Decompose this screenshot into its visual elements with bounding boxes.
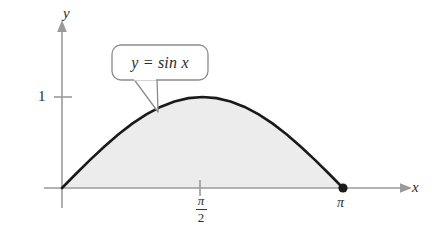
sine-area-figure: y x 1 π 2 π y = sin x [0,0,432,244]
endpoint-dot-icon [338,183,347,192]
x-tick-label-pi-over-2: π 2 [192,194,210,224]
shaded-area-under-curve [62,97,343,188]
callout-label: y = sin x [112,45,208,80]
fraction-denominator: 2 [192,211,210,225]
y-axis-arrow-icon [57,20,67,32]
figure-canvas [0,0,432,244]
x-tick-label-pi: π [337,196,344,210]
y-axis-label: y [63,6,70,21]
x-axis-label: x [412,180,419,195]
x-axis-arrow-icon [400,183,412,193]
callout-pointer-tail [133,78,158,112]
y-tick-label-1: 1 [38,89,46,104]
fraction-numerator: π [192,194,210,208]
